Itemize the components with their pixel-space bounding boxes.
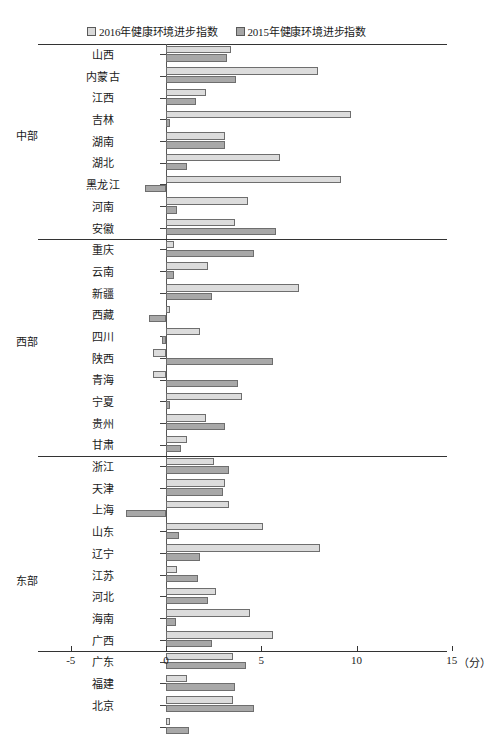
table-row: 西藏 — [0, 304, 453, 326]
bar-2016 — [166, 262, 208, 269]
category-label: 天津 — [43, 480, 163, 496]
x-axis-tick-mark — [357, 646, 358, 651]
bar-2016 — [166, 436, 187, 443]
bar-2015 — [166, 488, 223, 495]
bar-2015 — [166, 119, 170, 126]
table-row: 福建 — [0, 673, 453, 695]
bar-2016 — [166, 414, 206, 421]
bar-2015 — [149, 315, 166, 322]
bar-2016 — [166, 566, 177, 573]
table-row: 河北 — [0, 586, 453, 608]
x-axis-tick-label: 5 — [259, 654, 265, 666]
bar-2015 — [162, 336, 166, 343]
category-label: 辽宁 — [43, 545, 163, 561]
table-row: 四川 — [0, 326, 453, 348]
legend-label-2016: 2016年健康环境进步指数 — [99, 23, 217, 39]
bar-2015 — [166, 54, 227, 61]
table-row: 重庆 — [0, 239, 453, 261]
bar-2015 — [166, 445, 181, 452]
group-divider-1 — [38, 239, 447, 240]
category-label: 山东 — [43, 523, 163, 539]
table-row: 辽宁 — [0, 543, 453, 565]
bar-rows-container: 山西内蒙古江西吉林湖南湖北黑龙江河南安徽重庆云南新疆西藏四川陕西青海宁夏贵州甘肃… — [0, 44, 453, 738]
table-row: 湖南 — [0, 131, 453, 153]
category-label: 西藏 — [43, 306, 163, 322]
bar-2016 — [166, 67, 318, 74]
table-row: 青海 — [0, 369, 453, 391]
bar-2015 — [166, 727, 189, 734]
legend-swatch-2016 — [87, 27, 96, 36]
bar-2016 — [166, 154, 280, 161]
bar-2016 — [166, 306, 170, 313]
bar-2015 — [166, 380, 238, 387]
x-axis-tick-mark — [261, 646, 262, 651]
table-row: 广西 — [0, 630, 453, 652]
bar-2016 — [166, 328, 200, 335]
bar-2015 — [166, 597, 208, 604]
x-axis-tick-mark — [452, 646, 453, 651]
table-row: 山东 — [0, 521, 453, 543]
bar-2015 — [166, 553, 200, 560]
x-axis-tick-label: -5 — [66, 654, 75, 666]
table-row: 湖北 — [0, 152, 453, 174]
table-row: 吉林 — [0, 109, 453, 131]
category-label: 甘肃 — [43, 436, 163, 452]
bar-2016 — [166, 284, 299, 291]
bar-2015 — [166, 228, 276, 235]
bar-2015 — [166, 423, 225, 430]
table-row: 宁夏 — [0, 391, 453, 413]
bar-2016 — [166, 718, 170, 725]
bar-2015 — [166, 250, 254, 257]
category-label: 贵州 — [43, 415, 163, 431]
bar-2015 — [166, 401, 170, 408]
table-row: 安徽 — [0, 218, 453, 240]
x-axis-unit-label: （分） — [458, 654, 488, 670]
bar-2016 — [166, 675, 187, 682]
table-row: 北京 — [0, 695, 453, 717]
table-row: 云南 — [0, 261, 453, 283]
bar-2016 — [166, 219, 235, 226]
bar-2015 — [166, 206, 177, 213]
x-axis-tick-mark — [71, 646, 72, 651]
bar-2015 — [166, 293, 212, 300]
category-label: 安徽 — [43, 220, 163, 236]
chart-legend: 2016年健康环境进步指数 2015年健康环境进步指数 — [0, 23, 453, 39]
category-label: 河北 — [43, 588, 163, 604]
x-axis-ticks: -5051015（分） — [0, 651, 453, 669]
x-axis-tick-label: 10 — [351, 654, 362, 666]
bar-2015 — [145, 185, 166, 192]
category-label: 吉林 — [43, 111, 163, 127]
bar-2016 — [166, 609, 250, 616]
group-label-central: 中部 — [14, 130, 40, 142]
category-label: 陕西 — [43, 350, 163, 366]
bar-2015 — [166, 683, 235, 690]
bar-2016 — [166, 588, 216, 595]
category-label: 广西 — [43, 632, 163, 648]
bar-2015 — [166, 271, 174, 278]
x-axis-tick-label: 15 — [446, 654, 457, 666]
table-row: 江西 — [0, 87, 453, 109]
legend-label-2015: 2015年健康环境进步指数 — [248, 23, 366, 39]
bar-2015 — [166, 705, 254, 712]
group-divider-2 — [38, 456, 447, 457]
bar-2016 — [166, 544, 320, 551]
category-label: 云南 — [43, 263, 163, 279]
bar-2016 — [166, 89, 206, 96]
bar-2016 — [166, 458, 214, 465]
category-label: 湖北 — [43, 154, 163, 170]
category-label: 江苏 — [43, 567, 163, 583]
category-label: 福建 — [43, 675, 163, 691]
table-row — [0, 716, 453, 738]
category-label: 青海 — [43, 371, 163, 387]
x-axis-tick-mark — [166, 646, 167, 651]
category-label: 新疆 — [43, 285, 163, 301]
bar-2015 — [166, 466, 229, 473]
bar-2016 — [166, 241, 174, 248]
bar-2016 — [153, 349, 166, 356]
category-label: 北京 — [43, 697, 163, 713]
x-axis-tick-label: 0 — [163, 654, 169, 666]
bar-2016 — [166, 176, 341, 183]
bar-2015 — [166, 640, 212, 647]
table-row: 新疆 — [0, 283, 453, 305]
bar-2016 — [166, 197, 248, 204]
